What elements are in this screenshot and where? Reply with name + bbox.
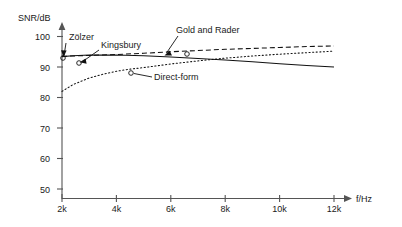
x-axis-arrow <box>344 195 352 202</box>
annotation-gold-and-rader: Gold and Rader <box>176 25 240 35</box>
marker-direct-form <box>129 71 134 76</box>
annotation-kingsbury: Kingsbury <box>101 40 142 50</box>
annotation-zolzer: Zölzer <box>69 32 94 42</box>
x-axis-title: f/Hz <box>356 194 373 204</box>
x-tick-label: 10k <box>272 204 287 214</box>
x-tick-label: 6k <box>166 204 176 214</box>
y-axis-title: SNR/dB <box>18 13 51 23</box>
y-axis <box>59 22 66 199</box>
leader-gold-and-rader <box>167 36 179 53</box>
y-tick-label: 100 <box>35 32 50 42</box>
x-tick-label: 4k <box>112 204 122 214</box>
marker-gold-and-rader <box>185 52 190 57</box>
y-tick-label: 90 <box>40 63 50 73</box>
x-tick-label: 8k <box>220 204 230 214</box>
x-tick-labels: 2k 4k 6k 8k 10k 12k <box>57 204 342 214</box>
y-tick-label: 50 <box>40 185 50 195</box>
x-tick-label: 2k <box>57 204 67 214</box>
y-tick-label: 70 <box>40 124 50 134</box>
x-tick-label: 12k <box>327 204 342 214</box>
snr-vs-frequency-chart: SNR/dB f/Hz 100 90 80 70 60 <box>0 0 402 227</box>
chart-figure: SNR/dB f/Hz 100 90 80 70 60 <box>0 0 402 227</box>
y-tick-label: 60 <box>40 154 50 164</box>
y-axis-arrow <box>59 22 66 30</box>
y-tick-labels: 100 90 80 70 60 50 <box>35 32 50 195</box>
annotation-direct-form: Direct-form <box>154 72 199 82</box>
series-group <box>62 46 334 91</box>
x-axis <box>62 195 352 202</box>
leader-direct-form <box>134 74 152 78</box>
y-tick-label: 80 <box>40 93 50 103</box>
marker-kingsbury <box>77 61 82 66</box>
